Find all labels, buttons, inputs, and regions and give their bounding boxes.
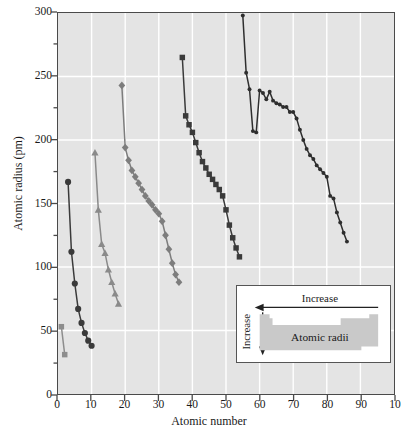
data-point — [206, 172, 211, 177]
data-point — [258, 88, 262, 92]
series-5 — [180, 55, 243, 260]
data-point — [254, 130, 258, 134]
data-point — [342, 231, 346, 235]
data-point — [172, 271, 179, 279]
x-tick-label: 90 — [355, 398, 367, 410]
x-tick-label: 50 — [220, 398, 232, 410]
inset-body-label: Atomic radii — [291, 331, 349, 343]
inset-left-label: Increase — [240, 314, 252, 350]
data-point — [101, 249, 108, 255]
x-tick-label: 0 — [54, 398, 60, 410]
data-point — [298, 128, 302, 132]
data-point — [241, 14, 245, 18]
data-point — [85, 338, 91, 344]
data-point — [288, 110, 292, 114]
data-point — [278, 102, 282, 106]
data-point — [311, 157, 315, 161]
y-tick-label: 50 — [41, 325, 53, 337]
data-point — [271, 99, 275, 103]
data-point — [118, 82, 125, 90]
series-1 — [59, 324, 68, 357]
data-point — [180, 55, 185, 60]
data-point — [98, 241, 105, 247]
data-point — [308, 153, 312, 157]
data-point — [217, 187, 222, 192]
data-point — [338, 221, 342, 225]
x-axis-label: Atomic number — [0, 414, 418, 429]
x-tick-label: 70 — [288, 398, 300, 410]
data-point — [169, 259, 176, 267]
y-tick-label: 250 — [35, 70, 52, 82]
data-point — [345, 240, 349, 244]
data-point — [183, 113, 188, 118]
data-point — [264, 97, 268, 101]
series-6 — [241, 14, 349, 244]
series-2 — [65, 179, 95, 349]
data-point — [220, 193, 225, 198]
data-point — [301, 138, 305, 142]
data-point — [115, 300, 122, 306]
x-tick-label: 40 — [186, 398, 198, 410]
inset-periodic-table: Increase Increase Atomic radii — [236, 285, 391, 363]
data-point — [233, 245, 238, 250]
data-point — [251, 129, 255, 133]
data-point — [328, 194, 332, 198]
data-point — [213, 182, 218, 187]
data-point — [135, 179, 142, 187]
data-point — [335, 210, 339, 214]
data-point — [132, 173, 139, 181]
data-point — [210, 177, 215, 182]
data-point — [122, 144, 129, 152]
y-tick-label: 100 — [35, 261, 52, 273]
data-point — [68, 249, 74, 255]
data-point — [78, 320, 84, 326]
data-point — [281, 105, 285, 109]
data-point — [193, 140, 198, 145]
data-point — [112, 290, 119, 296]
data-point — [332, 196, 336, 200]
data-point — [75, 306, 81, 312]
data-point — [166, 245, 173, 253]
data-point — [65, 179, 71, 185]
x-tick-label: 80 — [322, 398, 334, 410]
series-3 — [91, 149, 122, 307]
x-tick-label: 60 — [254, 398, 266, 410]
data-point — [295, 116, 299, 120]
inset-top-label: Increase — [302, 292, 338, 304]
data-point — [91, 149, 98, 155]
data-point — [237, 254, 242, 259]
data-point — [186, 122, 191, 127]
data-point — [268, 90, 272, 94]
x-tick-label: 10 — [85, 398, 97, 410]
data-point — [305, 147, 309, 151]
y-tick-label: 300 — [35, 6, 52, 18]
data-point — [203, 165, 208, 170]
data-point — [129, 167, 136, 175]
x-tick-label: 30 — [153, 398, 165, 410]
data-point — [321, 171, 325, 175]
data-point — [227, 222, 232, 227]
data-point — [108, 279, 115, 285]
y-tick-label: 150 — [35, 198, 52, 210]
data-point — [176, 278, 183, 286]
data-point — [62, 352, 67, 357]
data-point — [325, 175, 329, 179]
data-point — [261, 91, 265, 95]
data-point — [89, 343, 95, 349]
data-point — [125, 156, 132, 164]
data-point — [95, 206, 102, 212]
increase-arrow-horizontal — [255, 304, 378, 311]
data-point — [196, 150, 201, 155]
data-point — [159, 217, 166, 225]
data-point — [200, 159, 205, 164]
data-point — [223, 207, 228, 212]
series-4 — [118, 82, 182, 287]
data-point — [230, 235, 235, 240]
data-point — [59, 324, 64, 329]
data-point — [315, 163, 319, 167]
data-point — [248, 87, 252, 91]
data-point — [285, 105, 289, 109]
x-tick-label: 10 — [389, 398, 401, 410]
data-point — [72, 280, 78, 286]
data-point — [139, 186, 146, 194]
